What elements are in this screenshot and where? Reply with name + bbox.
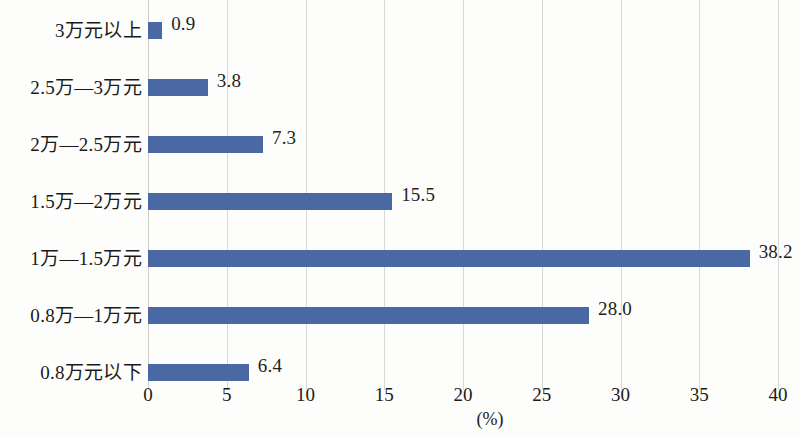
bar[interactable] bbox=[148, 250, 750, 267]
bar-row: 7.3 bbox=[148, 115, 778, 172]
x-tick-label: 15 bbox=[375, 384, 394, 406]
x-tick-label: 5 bbox=[222, 384, 232, 406]
bar-row: 3.8 bbox=[148, 58, 778, 115]
x-axis-title: (%) bbox=[0, 409, 800, 430]
category-label: 0.8万元以下 bbox=[2, 357, 142, 384]
x-tick-label: 0 bbox=[143, 384, 153, 406]
bar-value-label: 38.2 bbox=[759, 241, 793, 263]
bar-value-label: 28.0 bbox=[598, 298, 632, 320]
x-tick-label: 25 bbox=[532, 384, 551, 406]
bar[interactable] bbox=[148, 307, 589, 324]
plot-area: 0.93.87.315.538.228.06.4 bbox=[148, 0, 778, 378]
x-tick-label: 35 bbox=[690, 384, 709, 406]
bar-value-label: 7.3 bbox=[272, 127, 296, 149]
category-label: 3万元以上 bbox=[2, 15, 142, 42]
bar-value-label: 0.9 bbox=[171, 13, 195, 35]
bar-row: 28.0 bbox=[148, 286, 778, 343]
category-label: 0.8万—1万元 bbox=[2, 300, 142, 327]
x-tick-label: 30 bbox=[611, 384, 630, 406]
bar[interactable] bbox=[148, 22, 162, 39]
x-tick-label: 10 bbox=[296, 384, 315, 406]
bar[interactable] bbox=[148, 79, 208, 96]
bar-value-label: 15.5 bbox=[401, 184, 435, 206]
category-label: 1万—1.5万元 bbox=[2, 243, 142, 270]
x-tick-label: 20 bbox=[454, 384, 473, 406]
category-axis: 3万元以上2.5万—3万元2万—2.5万元1.5万—2万元1万—1.5万元0.8… bbox=[0, 0, 142, 378]
bar-row: 15.5 bbox=[148, 172, 778, 229]
bar-row: 38.2 bbox=[148, 229, 778, 286]
bar[interactable] bbox=[148, 136, 263, 153]
category-label: 1.5万—2万元 bbox=[2, 186, 142, 213]
bar[interactable] bbox=[148, 364, 249, 381]
category-label: 2万—2.5万元 bbox=[2, 129, 142, 156]
x-axis-title-label: (%) bbox=[477, 409, 504, 429]
category-label: 2.5万—3万元 bbox=[2, 72, 142, 99]
gridline bbox=[778, 0, 779, 390]
bar-row: 0.9 bbox=[148, 1, 778, 58]
bar-value-label: 6.4 bbox=[258, 355, 282, 377]
bar-chart: 0.93.87.315.538.228.06.4 3万元以上2.5万—3万元2万… bbox=[0, 0, 800, 437]
x-tick-label: 40 bbox=[769, 384, 788, 406]
bar-value-label: 3.8 bbox=[217, 70, 241, 92]
bar[interactable] bbox=[148, 193, 392, 210]
